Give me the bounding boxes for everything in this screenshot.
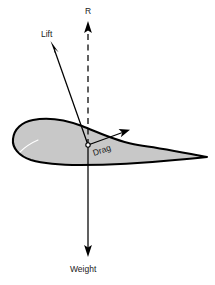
resultant-vector-group: R — [84, 6, 92, 145]
lift-label: Lift — [41, 29, 53, 39]
airfoil-group — [13, 119, 207, 165]
resultant-arrowhead — [84, 21, 92, 33]
lift-arrowhead — [51, 41, 59, 54]
resultant-label: R — [85, 6, 91, 16]
weight-label: Weight — [70, 264, 97, 274]
airfoil-force-diagram: R Lift Drag Weight — [0, 0, 215, 285]
airfoil-cross-section — [13, 119, 207, 165]
center-of-pressure-point — [86, 143, 90, 147]
diagram-canvas: R Lift Drag Weight — [0, 0, 215, 285]
